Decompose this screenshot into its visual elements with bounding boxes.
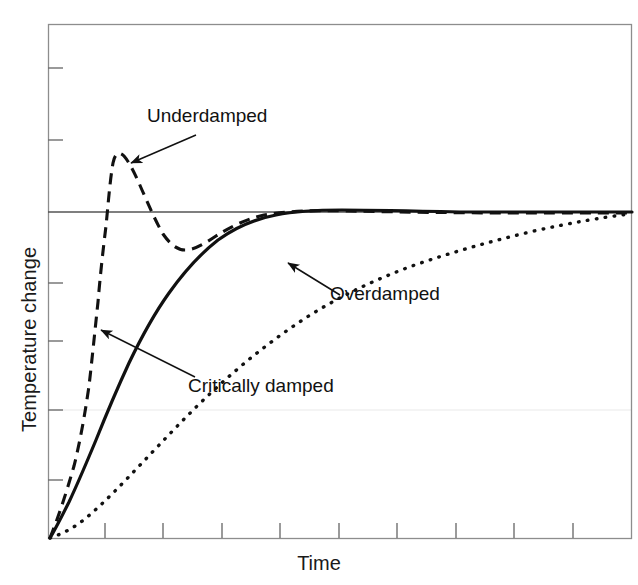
y-axis-label: Temperature change bbox=[16, 132, 42, 432]
annotation-arrows bbox=[101, 135, 340, 377]
x-axis-ticks bbox=[105, 523, 573, 538]
arrow-underdamped bbox=[131, 135, 196, 163]
arrow-critically-damped bbox=[101, 330, 195, 377]
annotation-label-underdamped: Underdamped bbox=[147, 105, 267, 127]
annotation-label-critically-damped: Critically damped bbox=[188, 375, 334, 397]
y-axis-ticks bbox=[48, 68, 63, 480]
plot-frame bbox=[49, 25, 632, 539]
chart-plot-area bbox=[0, 0, 638, 585]
chart-figure: Temperature change Time Underdamped Over… bbox=[0, 0, 638, 585]
x-axis-label: Time bbox=[0, 552, 638, 575]
annotation-label-overdamped: Overdamped bbox=[330, 283, 440, 305]
series-line-critically-damped bbox=[50, 210, 632, 538]
series-line-overdamped bbox=[50, 214, 630, 538]
